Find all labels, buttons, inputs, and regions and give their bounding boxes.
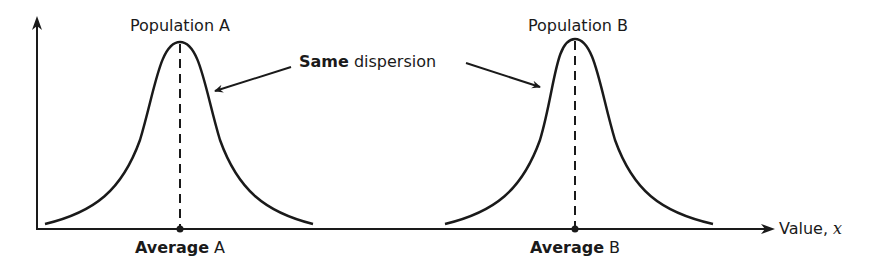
label-average-b: Average B (530, 240, 620, 256)
curve-population-b (445, 39, 713, 224)
x-axis-variable: x (833, 219, 842, 238)
y-axis (32, 16, 42, 229)
x-axis (36, 224, 775, 234)
x-axis-label-text: Value, (779, 219, 833, 238)
annotation-same-dispersion: Same dispersion (299, 54, 436, 70)
label-population-b: Population B (528, 18, 628, 34)
average-a-word: Average (135, 238, 209, 257)
average-b-letter: B (604, 238, 620, 257)
x-axis-label: Value, x (779, 221, 842, 237)
annotation-arrow-a (215, 67, 291, 91)
diagram-canvas (0, 0, 884, 279)
annotation-dispersion: dispersion (349, 52, 436, 71)
average-a-letter: A (209, 238, 225, 257)
annotation-same: Same (299, 52, 349, 71)
mean-point-b (572, 226, 579, 233)
annotation-arrow-b (466, 63, 540, 87)
mean-point-a (177, 226, 184, 233)
average-b-word: Average (530, 238, 604, 257)
label-average-a: Average A (135, 240, 225, 256)
label-population-a: Population A (130, 18, 230, 34)
